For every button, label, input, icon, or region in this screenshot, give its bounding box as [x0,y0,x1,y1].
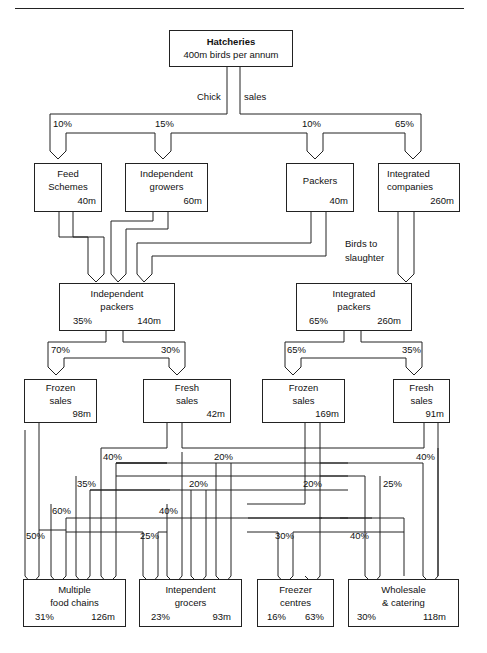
frozen-sales-indep-line1: Frozen [25,381,96,394]
route-pct-35-freshind-multiple: 35% [77,478,96,489]
multiple-food-chains-line2: food chains [24,596,125,609]
integrated-companies-line1: Integrated [387,167,430,180]
hatcheries-title: Hatcheries [170,35,292,48]
node-wholesale-catering: Wholesale & catering 30% 118m [348,579,459,627]
label-slaughter: slaughter [345,252,384,263]
node-integrated-packers: Integrated packers 65% 260m [296,283,412,331]
packers-value: 40m [330,194,348,207]
node-independent-packers: Independent packers 35% 140m [59,283,175,331]
frozen-sales-indep-line2: sales [25,394,96,407]
frozen-sales-integ-line2: sales [263,394,344,407]
fresh-sales-indep-value: 42m [207,407,225,420]
freezer-centres-pct: 16% [267,610,286,623]
route-pct-25-frozenind-grocers: 25% [140,530,159,541]
feed-schemes-line1: Feed [35,167,101,180]
route-pct-40-freshind-multiple: 40% [103,451,122,462]
route-pct-30-freezer: 30% [275,530,294,541]
route-pct-40-freshinteg-wholesale: 40% [416,451,435,462]
independent-packers-line1: Independent [60,287,174,300]
fresh-sales-indep-line2: sales [144,394,230,407]
independent-growers-line1: Independent [126,167,207,180]
label-sales: sales [244,91,266,102]
split-indep-frozen: 70% [51,344,70,355]
frozen-sales-indep-value: 98m [73,407,91,420]
node-hatcheries: Hatcheries 400m birds per annum [169,30,293,67]
hatcheries-subtitle: 400m birds per annum [170,48,292,61]
independent-packers-pct: 35% [73,314,92,327]
share-independent-growers: 15% [155,118,174,129]
split-integ-fresh: 35% [402,344,421,355]
share-packers: 10% [302,118,321,129]
integrated-companies-line2: companies [387,180,433,193]
independent-growers-value: 60m [184,194,202,207]
integrated-packers-value: 260m [377,314,401,327]
wholesale-catering-value: 118m [423,610,446,623]
route-pct-40-freshind-grocers: 40% [159,505,178,516]
fresh-sales-integ-value: 91m [426,407,444,420]
node-independent-grocers: Intependent grocers 23% 93m [139,579,242,627]
split-indep-fresh: 30% [161,344,180,355]
freezer-centres-line1: Freezer [258,583,333,596]
node-packers: Packers 40m [286,163,354,212]
node-feed-schemes: Feed Schemes 40m [34,163,102,212]
integrated-packers-line2: packers [297,300,411,313]
fresh-sales-indep-line1: Fresh [144,381,230,394]
independent-grocers-line2: grocers [140,596,241,609]
integrated-packers-pct: 65% [309,314,328,327]
node-multiple-food-chains: Multiple food chains 31% 126m [23,579,126,627]
route-pct-25-frozeninteg-wholesale: 25% [383,478,402,489]
share-integrated-companies: 65% [395,118,414,129]
route-pct-20-frozeninteg-grocers: 20% [189,478,208,489]
route-pct-20-frozeninteg-freezer: 20% [303,478,322,489]
node-freezer-centres: Freezer centres 16% 63% [257,579,334,627]
route-pct-40-wholesale: 40% [350,530,369,541]
frozen-sales-integ-line1: Frozen [263,381,344,394]
fresh-sales-integ-line2: sales [394,394,449,407]
node-integrated-companies: Integrated companies 260m [378,163,460,212]
packers-line1: Packers [287,174,353,187]
multiple-food-chains-pct: 31% [35,610,54,623]
node-fresh-sales-independent: Fresh sales 42m [143,379,231,423]
independent-growers-line2: growers [126,180,207,193]
node-frozen-sales-independent: Frozen sales 98m [24,379,97,423]
feed-schemes-line2: Schemes [35,180,101,193]
node-fresh-sales-integrated: Fresh sales 91m [393,379,450,423]
wholesale-catering-pct: 30% [357,610,376,623]
label-birds-to: Birds to [345,238,377,249]
integrated-companies-value: 260m [430,194,454,207]
frozen-sales-integ-value: 169m [315,407,339,420]
share-feed-schemes: 10% [53,118,72,129]
node-independent-growers: Independent growers 60m [125,163,208,212]
label-chick: Chick [197,91,221,102]
split-integ-frozen: 65% [287,344,306,355]
independent-grocers-value: 93m [213,610,231,623]
fresh-sales-integ-line1: Fresh [394,381,449,394]
integrated-packers-line1: Integrated [297,287,411,300]
multiple-food-chains-value: 126m [91,610,115,623]
multiple-food-chains-line1: Multiple [24,583,125,596]
freezer-centres-line2: centres [258,596,333,609]
independent-packers-value: 140m [137,314,161,327]
independent-grocers-line1: Intependent [140,583,241,596]
route-pct-20-freshind-grocers: 20% [214,451,233,462]
independent-packers-line2: packers [60,300,174,313]
independent-grocers-pct: 23% [151,610,170,623]
feed-schemes-value: 40m [78,194,96,207]
route-pct-60-frozenind-multiple: 60% [52,505,71,516]
node-frozen-sales-integrated: Frozen sales 169m [262,379,345,423]
freezer-centres-value: 63% [305,610,324,623]
route-pct-50-frozenind-multiple: 50% [26,530,45,541]
wholesale-catering-line2: & catering [349,596,458,609]
wholesale-catering-line1: Wholesale [349,583,458,596]
